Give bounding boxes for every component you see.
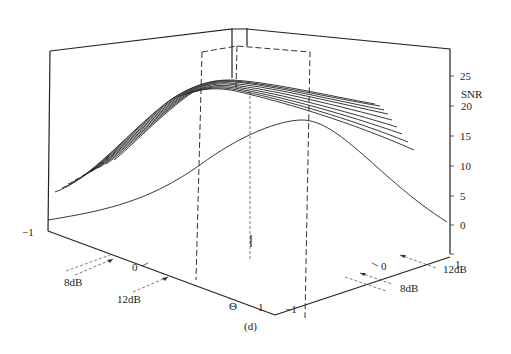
z-tick-5: 5 — [460, 190, 466, 202]
back-wall-left — [50, 29, 232, 78]
snr-3d-plot: 25 SNR 20 15 10 5 0 1 −1 0 Θ 1 8dB — [0, 0, 511, 354]
z-tick-10: 10 — [460, 160, 472, 172]
right-tick-neg1: −1 — [285, 303, 297, 315]
left-8db-label: 8dB — [64, 276, 82, 288]
back-wall-left-edge — [48, 51, 50, 231]
left-tick-neg1: −1 — [22, 226, 34, 238]
right-8db-label: 8dB — [400, 282, 418, 294]
x-axis-left — [48, 231, 275, 315]
left-tick-1: 1 — [258, 301, 264, 313]
figure-caption: (d) — [244, 320, 257, 333]
right-tick-0: 0 — [381, 260, 387, 272]
z-axis-label: SNR — [461, 88, 483, 100]
right-12db-label: 12dB — [443, 263, 467, 275]
z-tick-25: 25 — [460, 70, 472, 82]
back-wall-right — [232, 29, 450, 254]
left-tick-mark-0 — [142, 263, 148, 266]
right-tick-mark-0 — [372, 263, 378, 266]
z-tick-0: 0 — [460, 219, 466, 231]
lower-curve — [48, 120, 447, 222]
z-tick-15: 15 — [460, 130, 472, 142]
left-tick-0: 0 — [132, 261, 138, 273]
left-12db-label: 12dB — [117, 293, 141, 305]
z-tick-20: 20 — [461, 100, 473, 112]
right-annotation-arrows — [345, 255, 436, 291]
upper-curve-bundle — [55, 80, 414, 192]
theta-label: Θ — [229, 300, 237, 312]
x-axis-right — [275, 257, 450, 315]
